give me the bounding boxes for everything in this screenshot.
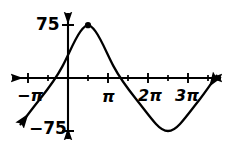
maximum-point-dot — [85, 22, 91, 28]
x-axis-label-3pi: 3π — [175, 88, 199, 104]
x-axis-label-negative-pi: −π — [17, 88, 43, 104]
y-axis-label-negative-75: −75 — [29, 120, 67, 137]
sine-graph-figure: 75 −75 −π π 2π 3π — [0, 0, 233, 150]
y-axis-label-75: 75 — [36, 16, 60, 33]
x-axis-label-2pi: 2π — [138, 88, 162, 104]
x-axis-label-pi: π — [102, 89, 115, 105]
